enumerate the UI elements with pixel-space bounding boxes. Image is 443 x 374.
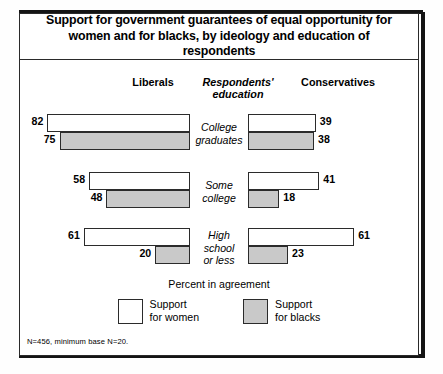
row-label: High school or less bbox=[183, 222, 255, 274]
row-label-line: college bbox=[202, 192, 236, 205]
bar-conservatives-women bbox=[248, 172, 319, 190]
bar-conservatives-women bbox=[248, 114, 316, 132]
row-label: Some college bbox=[183, 166, 255, 218]
bar-liberals-blacks bbox=[60, 132, 191, 150]
value-liberals-blacks: 75 bbox=[22, 133, 56, 145]
title-box: Support for government guarantees of equ… bbox=[20, 14, 418, 60]
footnote: N=456, minimum base N=20. bbox=[27, 337, 128, 346]
header-conservatives: Conservatives bbox=[268, 76, 408, 88]
chart-title: Support for government guarantees of equ… bbox=[20, 13, 418, 60]
conservatives-panel: 61 23 bbox=[248, 222, 418, 274]
legend-label-blacks-line2: for blacks bbox=[275, 311, 320, 324]
axis-caption: Percent in agreement bbox=[20, 278, 418, 290]
legend-label-women-line1: Support bbox=[150, 298, 199, 311]
bar-conservatives-blacks bbox=[248, 246, 288, 264]
value-liberals-blacks: 20 bbox=[117, 247, 151, 259]
legend-swatch-blacks bbox=[243, 299, 268, 324]
chart-row: 82 75 College graduates 39 38 bbox=[20, 108, 418, 160]
conservatives-panel: 39 38 bbox=[248, 108, 418, 160]
value-conservatives-blacks: 38 bbox=[318, 133, 352, 145]
bar-conservatives-blacks bbox=[248, 190, 279, 208]
row-label-line: College bbox=[201, 121, 237, 134]
row-label-line: Some bbox=[205, 179, 233, 192]
legend-item-women: Support for women bbox=[118, 298, 199, 324]
right-shadow-rule bbox=[421, 12, 425, 358]
value-conservatives-blacks: 23 bbox=[292, 247, 326, 259]
value-liberals-women: 61 bbox=[46, 229, 80, 241]
legend-label-women: Support for women bbox=[150, 298, 199, 323]
bar-liberals-blacks bbox=[106, 190, 190, 208]
row-label-line: or less bbox=[203, 254, 234, 267]
legend-item-blacks: Support for blacks bbox=[243, 298, 320, 324]
liberals-panel: 58 48 bbox=[20, 166, 190, 218]
liberals-panel: 82 75 bbox=[20, 108, 190, 160]
value-liberals-blacks: 48 bbox=[68, 191, 102, 203]
liberals-panel: 61 20 bbox=[20, 222, 190, 274]
row-label: College graduates bbox=[183, 108, 255, 160]
plot-area: 82 75 College graduates 39 38 58 48 bbox=[20, 104, 418, 282]
value-conservatives-women: 61 bbox=[358, 229, 392, 241]
row-label-line: graduates bbox=[195, 134, 242, 147]
bar-conservatives-women bbox=[248, 228, 354, 246]
bar-liberals-women bbox=[47, 114, 190, 132]
value-conservatives-women: 39 bbox=[320, 115, 354, 127]
column-headers: Liberals Respondents' education Conserva… bbox=[20, 70, 418, 102]
chart-legend: Support for women Support for blacks bbox=[20, 298, 418, 334]
legend-label-women-line2: for women bbox=[150, 311, 199, 324]
row-label-line: school bbox=[204, 242, 235, 255]
conservatives-panel: 41 18 bbox=[248, 166, 418, 218]
value-conservatives-women: 41 bbox=[323, 173, 357, 185]
row-label-line: High bbox=[208, 229, 230, 242]
legend-label-blacks: Support for blacks bbox=[275, 298, 320, 323]
legend-swatch-women bbox=[118, 299, 143, 324]
chart-row: 58 48 Some college 41 18 bbox=[20, 166, 418, 218]
legend-label-blacks-line1: Support bbox=[275, 298, 320, 311]
bar-liberals-women bbox=[84, 228, 190, 246]
chart-row: 61 20 High school or less 61 23 bbox=[20, 222, 418, 274]
bar-conservatives-blacks bbox=[248, 132, 314, 150]
header-education-line2: education bbox=[188, 88, 288, 100]
value-conservatives-blacks: 18 bbox=[283, 191, 317, 203]
value-liberals-women: 82 bbox=[9, 115, 43, 127]
value-liberals-women: 58 bbox=[51, 173, 85, 185]
chart-figure: Support for government guarantees of equ… bbox=[0, 0, 443, 374]
bar-liberals-women bbox=[89, 172, 190, 190]
